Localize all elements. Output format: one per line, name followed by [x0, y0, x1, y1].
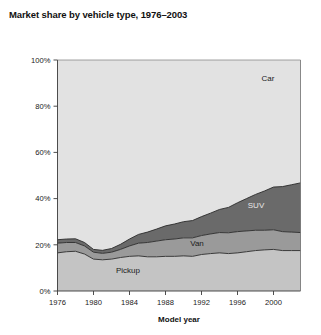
x-tick-label: 1992: [193, 298, 210, 307]
y-tick-label: 80%: [35, 102, 50, 111]
y-tick-label: 20%: [35, 241, 50, 250]
x-tick-label: 1988: [157, 298, 174, 307]
y-tick-label: 60%: [35, 148, 50, 157]
x-tick-label: 1996: [229, 298, 246, 307]
x-axis-title: Model year: [158, 315, 200, 324]
x-tick-label: 1984: [121, 298, 138, 307]
series-label-pickup: Pickup: [116, 266, 141, 275]
y-tick-label: 0%: [40, 287, 51, 296]
series-label-suv: SUV: [248, 201, 265, 210]
x-tick-label: 1980: [85, 298, 102, 307]
y-axis-ticks: 0%20%40%60%80%100%: [31, 56, 57, 296]
x-tick-label: 2000: [265, 298, 282, 307]
area-chart-plot: 0%20%40%60%80%100% 197619801984198819921…: [0, 0, 321, 335]
x-axis-ticks: 1976198019841988199219962000: [49, 291, 282, 307]
stacked-areas: [58, 60, 301, 291]
y-tick-label: 100%: [31, 56, 51, 65]
y-tick-label: 40%: [35, 194, 50, 203]
series-label-car: Car: [262, 74, 275, 83]
chart-figure: Market share by vehicle type, 1976–2003 …: [0, 0, 321, 335]
series-label-van: Van: [190, 239, 204, 248]
x-tick-label: 1976: [49, 298, 66, 307]
